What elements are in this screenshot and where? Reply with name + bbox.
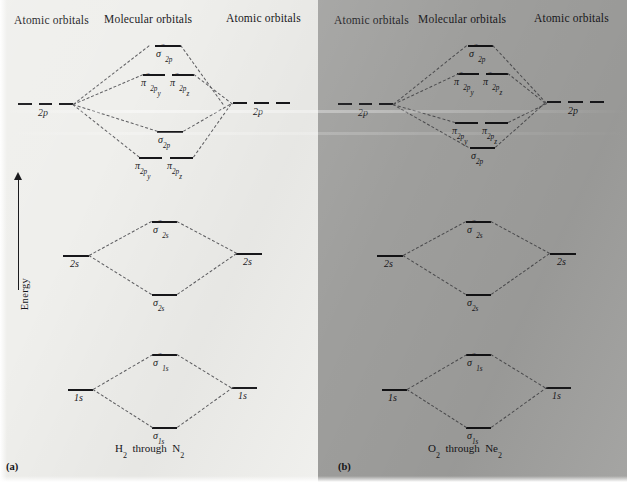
panel-b-atomic-2p-left — [338, 103, 393, 106]
panel-b-header-right-atomic: Atomic orbitals — [534, 12, 609, 24]
panel-b-corr-1s-r-up — [490, 354, 545, 388]
panel-a-label-pi-2py-star: π*2py — [141, 77, 161, 89]
panel-b-atomic-1s-left — [382, 389, 407, 391]
panel-b-tag: (b) — [338, 461, 351, 472]
panel-b-corr-1s-l-up — [407, 354, 467, 390]
panel-a-atomic-2p-left — [18, 103, 73, 106]
panel-b-label-sigma-2p: σ2p — [471, 150, 483, 161]
panel-b-header-left-atomic: Atomic orbitals — [334, 14, 409, 26]
panel-b-corr-1s-r-down — [491, 387, 547, 428]
panel-a-atomic-1s-left-label: 1s — [74, 392, 83, 403]
energy-axis-label: Energy — [19, 261, 30, 327]
panel-b-level-sigma-2p-star — [468, 45, 493, 47]
panel-a-corr-2s-l-up — [89, 221, 152, 256]
panel-b-atomic-1s-right-label: 1s — [552, 390, 561, 401]
mo-diagram-figure: Atomic orbitals Molecular orbitals Atomi… — [0, 0, 627, 482]
panel-b-atomic-2s-left-label: 2s — [384, 258, 393, 269]
panel-b-label-pi-2pz: π2pz — [482, 125, 497, 137]
panel-b-atomic-2p-left-label: 2p — [358, 107, 368, 118]
panel-b-label-sigma-1s: σ1s — [467, 430, 478, 441]
panel-b-level-sigma-2s — [466, 294, 491, 296]
panel-a-level-sigma-2s-star — [152, 221, 177, 223]
panel-a-corr-2s-r-up — [177, 221, 238, 254]
panel-b-label-sigma-2s: σ2s — [467, 297, 478, 308]
panel-a-caption: H2 through N2 — [115, 442, 184, 454]
panel-b-atomic-2s-right — [550, 253, 576, 255]
panel-b-corr-2s-r-up — [491, 221, 550, 254]
panel-a-corr-1s-r-up — [176, 354, 231, 388]
panel-a-header-left-atomic: Atomic orbitals — [14, 14, 89, 26]
panel-a-level-sigma-2p-star — [155, 45, 181, 47]
panel-a-atomic-1s-right — [232, 387, 257, 389]
panel-a-label-sigma-2s: σ2s — [153, 297, 164, 308]
panel-a-corr-1s-l-up — [93, 354, 153, 390]
energy-axis: Energy — [8, 172, 30, 342]
panel-a-header-right-atomic: Atomic orbitals — [226, 12, 301, 24]
panel-a-atomic-2s-right — [236, 253, 262, 255]
panel-a-corr-2p-r-pi-z — [193, 104, 231, 158]
panel-b-atomic-2s-right-label: 2s — [557, 256, 566, 267]
panel-b-corr-2p-r-pi-star-z — [507, 73, 545, 104]
panel-a-level-pi-2pz — [170, 157, 193, 159]
panel-b-atomic-2p-right — [547, 101, 604, 104]
panel-a-label-pi-2pz: π2pz — [167, 160, 182, 172]
panel-b-label-sigma-1s-star: σ*1s — [467, 357, 483, 368]
panel-b-corr-2s-l-down — [402, 255, 465, 295]
panel-b-atomic-1s-left-label: 1s — [388, 392, 397, 403]
panel-b-header-center-molecular: Molecular orbitals — [418, 13, 506, 25]
panel-b-level-sigma-2p — [470, 147, 495, 149]
panel-a-corr-2s-r-down — [177, 253, 237, 295]
panel-a-atomic-2p-right — [233, 102, 290, 105]
panel-a-atomic-1s-left — [68, 389, 93, 391]
panel-a-level-pi-2py — [139, 157, 162, 159]
panel-b-atomic-1s-right — [546, 387, 571, 389]
panel-b-corr-2s-r-down — [491, 253, 550, 295]
panel-a-tag: (a) — [6, 461, 18, 472]
panel-a-header-center-molecular: Molecular orbitals — [104, 13, 192, 25]
panel-b-label-sigma-2p-star: σ*2p — [469, 48, 485, 59]
panel-a-atomic-2p-right-label: 2p — [253, 106, 263, 117]
panel-a-label-sigma-2p: σ2p — [158, 134, 170, 145]
panel-a-corr-1s-r-down — [177, 387, 233, 428]
panel-b-level-sigma-1s — [466, 427, 491, 429]
panel-b-corr-2p-l-pi-y — [393, 104, 455, 123]
panel-a-atomic-2s-right-label: 2s — [243, 256, 252, 267]
panel-a-corr-2p-l-pi-y — [72, 104, 139, 158]
panel-a-label-pi-2py: π2py — [135, 160, 150, 172]
panel-a-corr-1s-l-down — [92, 389, 152, 428]
panel-a-atomic-2s-left-label: 2s — [70, 258, 79, 269]
panel-a-corr-2s-l-down — [88, 255, 151, 295]
panel-b-level-sigma-2s-star — [466, 221, 491, 223]
panel-a-corr-2p-r-sigma — [183, 104, 230, 132]
panel-a-label-sigma-1s-star: σ*1s — [153, 357, 169, 368]
panel-a-label-sigma-1s: σ1s — [153, 430, 164, 441]
panel-b-level-pi-2pz — [485, 122, 508, 124]
panel-a-level-sigma-1s — [152, 427, 177, 429]
panel-b-label-pi-2py-star: π*2py — [454, 76, 474, 88]
panel-a-atomic-1s-right-label: 1s — [238, 390, 247, 401]
panel-b-corr-1s-l-down — [406, 389, 466, 428]
panel-a-h2-through-n2: Atomic orbitals Molecular orbitals Atomi… — [0, 0, 318, 482]
panel-a-atomic-2p-left-label: 2p — [38, 107, 48, 118]
panel-b-label-pi-2pz-star: π*2pz — [483, 76, 502, 88]
panel-a-label-sigma-2s-star: σ*2s — [153, 224, 169, 235]
panel-a-corr-2p-l-sigma — [73, 104, 158, 132]
panel-b-atomic-2s-left — [377, 255, 403, 257]
panel-b-caption: O2 through Ne2 — [428, 442, 502, 454]
panel-b-label-sigma-2s-star: σ*2s — [467, 224, 483, 235]
panel-a-level-sigma-2p — [157, 131, 183, 133]
panel-b-atomic-2p-right-label: 2p — [568, 105, 578, 116]
panel-a-atomic-2s-left — [63, 255, 89, 257]
panel-b-corr-2p-r-sigma — [495, 103, 545, 148]
panel-a-corr-2p-r-pi-star-z — [193, 74, 233, 105]
panel-a-corr-2p-l-pi-star-y — [73, 74, 144, 105]
panel-b-corr-2s-l-up — [403, 221, 466, 256]
panel-b-label-pi-2py: π2py — [452, 125, 467, 137]
panel-b-level-pi-2py — [455, 122, 478, 124]
panel-a-label-sigma-2p-star: σ*2p — [156, 48, 172, 59]
panel-a-level-sigma-1s-star — [152, 354, 177, 356]
panel-a-level-sigma-2s — [152, 294, 177, 296]
panel-a-label-pi-2pz-star: π*2pz — [170, 77, 189, 89]
panel-b-level-sigma-1s-star — [466, 354, 491, 356]
panel-b-o2-through-ne2: Atomic orbitals Molecular orbitals Atomi… — [318, 0, 627, 482]
